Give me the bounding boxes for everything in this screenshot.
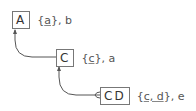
node-box: A	[12, 11, 30, 29]
node-label: {a}, b	[37, 14, 72, 27]
node-box: CD	[100, 87, 130, 105]
edge-c-to-a	[15, 30, 56, 57]
node-label: {c}, a	[81, 52, 115, 65]
node-c[interactable]: C {c}, a	[56, 49, 115, 67]
edge-cd-to-c	[59, 67, 100, 95]
arrowhead-icon	[13, 29, 17, 34]
node-a[interactable]: A {a}, b	[12, 11, 72, 29]
node-box: C	[56, 49, 74, 67]
node-cd[interactable]: CD {c, d}, e	[100, 87, 184, 105]
node-label: {c, d}, e	[137, 90, 185, 103]
